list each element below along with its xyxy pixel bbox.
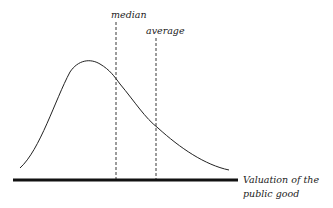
x-axis-label-line1: Valuation of the [243,174,319,185]
distribution-curve [20,61,229,170]
median-label: median [111,9,147,20]
x-axis-label-line2: public good [243,188,299,199]
average-label: average [146,25,185,36]
